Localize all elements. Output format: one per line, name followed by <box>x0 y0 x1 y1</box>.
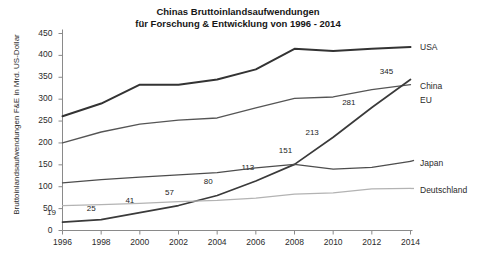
plot-area <box>0 0 486 264</box>
chart-container: Chinas Bruttoinlandsaufwendungen für For… <box>0 0 486 264</box>
series-line-deutschland <box>63 188 411 205</box>
series-line-japan <box>63 161 411 182</box>
series-line-china <box>63 79 411 222</box>
series-line-usa <box>63 47 411 116</box>
leader-lines <box>411 160 415 188</box>
series-line-eu <box>63 85 411 143</box>
series-lines <box>63 47 411 222</box>
